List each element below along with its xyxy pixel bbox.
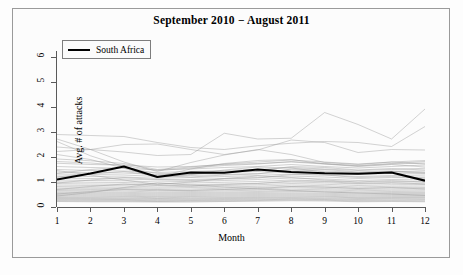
y-tick-label-2: 2 xyxy=(36,148,46,162)
x-tick-label-12: 12 xyxy=(416,216,434,226)
chart-title: September 2010 − August 2011 xyxy=(0,14,463,26)
y-tick-label-6: 6 xyxy=(36,48,46,62)
y-tick-label-4: 4 xyxy=(36,98,46,112)
x-tick-label-6: 6 xyxy=(215,216,233,226)
x-tick-label-8: 8 xyxy=(282,216,300,226)
y-tick-mark-0 xyxy=(51,207,56,208)
plot-area: Avg. # of attacks xyxy=(57,47,425,207)
x-axis-line xyxy=(57,207,425,208)
x-tick-label-3: 3 xyxy=(115,216,133,226)
x-tick-label-1: 1 xyxy=(48,216,66,226)
y-axis-label: Avg. # of attacks xyxy=(73,76,84,186)
x-tick-label-2: 2 xyxy=(81,216,99,226)
x-axis-label: Month xyxy=(0,232,463,243)
chart-root: September 2010 − August 2011 Avg. # of a… xyxy=(0,0,463,275)
y-tick-label-1: 1 xyxy=(36,173,46,187)
series-line xyxy=(57,109,425,156)
y-axis-line xyxy=(56,51,57,207)
x-tick-label-11: 11 xyxy=(383,216,401,226)
y-tick-label-3: 3 xyxy=(36,123,46,137)
legend-line-swatch xyxy=(68,49,90,51)
x-tick-mark-12 xyxy=(425,207,426,212)
x-tick-label-7: 7 xyxy=(249,216,267,226)
y-tick-label-5: 5 xyxy=(36,73,46,87)
x-tick-label-9: 9 xyxy=(316,216,334,226)
legend-label-south-africa: South Africa xyxy=(96,45,144,55)
legend-box: South Africa xyxy=(62,40,151,59)
x-tick-label-10: 10 xyxy=(349,216,367,226)
series-canvas xyxy=(57,47,425,207)
x-tick-label-4: 4 xyxy=(148,216,166,226)
y-tick-label-0: 0 xyxy=(36,198,46,212)
x-tick-label-5: 5 xyxy=(182,216,200,226)
